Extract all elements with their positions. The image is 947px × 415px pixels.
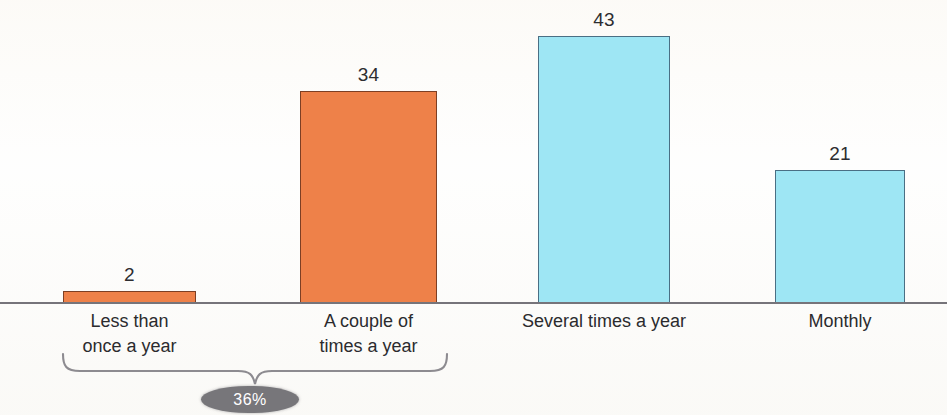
category-label-monthly: Monthly bbox=[743, 309, 937, 334]
category-label-line1: A couple of bbox=[324, 311, 413, 331]
x-axis-baseline bbox=[0, 302, 947, 304]
category-label-line1: Monthly bbox=[808, 311, 871, 331]
bar-value-label-a-couple-of-times-a-year: 34 bbox=[300, 64, 437, 86]
percent-badge-label: 36% bbox=[233, 391, 267, 409]
plot-area: 2 34 43 21 Less thanonce a year A couple… bbox=[0, 0, 947, 415]
category-label-line1: Several times a year bbox=[522, 311, 686, 331]
bar-several-times-a-year[interactable] bbox=[538, 36, 670, 303]
percent-badge: 36% bbox=[201, 386, 299, 413]
bar-value-label-monthly: 21 bbox=[775, 143, 905, 165]
bar-monthly[interactable] bbox=[775, 170, 905, 303]
bar-value-label-less-than-once-a-year: 2 bbox=[63, 264, 196, 286]
bar-chart-figure: 2 34 43 21 Less thanonce a year A couple… bbox=[0, 0, 947, 415]
bar-value-label-several-times-a-year: 43 bbox=[538, 9, 670, 31]
bar-a-couple-of-times-a-year[interactable] bbox=[300, 91, 437, 303]
category-label-several-times-a-year: Several times a year bbox=[507, 309, 701, 334]
category-label-line1: Less than bbox=[90, 311, 168, 331]
